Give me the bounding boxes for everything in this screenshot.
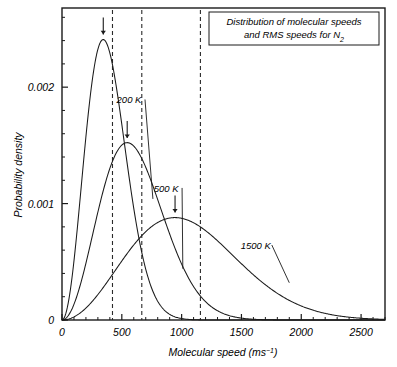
y-axis-major-ticks [62,87,68,320]
x-tick-label: 1500 [230,326,254,338]
x-axis-title: Molecular speed (ms−1) [169,346,278,358]
leader-line-200K [145,99,153,198]
distribution-curve-500K [62,143,385,320]
peak-arrow-head [125,134,130,138]
peak-arrow-head [101,31,106,35]
x-tick-label: 0 [59,326,65,338]
peak-arrow-head [172,209,177,213]
distribution-curve-1500K [62,218,385,320]
x-axis-tick-labels: 05001000150020002500 [59,326,373,338]
series-label-200K: 200 K [116,94,142,105]
distribution-curves [62,40,385,320]
x-tick-label: 500 [113,326,131,338]
rms-speed-dashed-lines [112,10,200,320]
x-tick-label: 2000 [289,326,314,338]
leader-line-1500K [272,245,289,283]
leader-line-500K [182,188,183,269]
y-tick-label: 0 [48,314,54,326]
y-axis-title: Probability density [12,132,24,218]
chart-figure: 05001000150020002500 00.0010.002 200 K50… [0,0,397,367]
x-tick-label: 2500 [348,326,373,338]
series-label-1500K: 1500 K [241,240,272,251]
title-box: Distribution of molecular speeds and RMS… [209,12,379,45]
series-label-500K: 500 K [154,183,179,194]
y-tick-label: 0.001 [28,198,54,210]
title-line-1: Distribution of molecular speeds [226,16,361,27]
molecular-speed-distribution-chart: 05001000150020002500 00.0010.002 200 K50… [0,0,397,367]
series-temperature-labels: 200 K500 K1500 K [116,94,272,251]
x-tick-label: 1000 [170,326,194,338]
x-axis-major-ticks [62,314,361,320]
y-axis-tick-labels: 00.0010.002 [28,81,54,326]
y-tick-label: 0.002 [28,81,54,93]
